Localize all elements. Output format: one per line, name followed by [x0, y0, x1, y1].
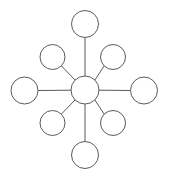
edge-hub-sw — [61, 100, 75, 114]
diagram-canvas — [0, 0, 169, 178]
node-spoke-s[interactable] — [72, 142, 99, 169]
node-spoke-w[interactable] — [11, 77, 38, 104]
node-spoke-n[interactable] — [72, 11, 99, 38]
edge-hub-se — [95, 100, 104, 114]
node-spoke-ne[interactable] — [101, 45, 126, 70]
node-hub[interactable] — [71, 76, 99, 104]
edge-hub-nw — [61, 66, 75, 80]
edge-hub-ne — [95, 66, 104, 80]
node-spoke-nw[interactable] — [40, 45, 65, 70]
node-spoke-sw[interactable] — [40, 111, 65, 136]
star-network-diagram — [0, 0, 169, 178]
node-spoke-e[interactable] — [131, 77, 158, 104]
node-spoke-se[interactable] — [101, 111, 126, 136]
node-layer — [11, 11, 158, 169]
